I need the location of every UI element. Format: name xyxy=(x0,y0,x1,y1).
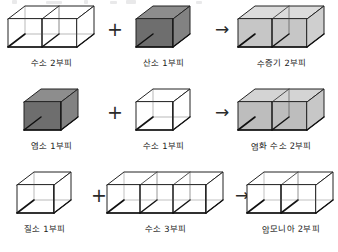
right-arrow-icon: → xyxy=(215,102,229,122)
cube-stack-2-clear xyxy=(5,2,99,56)
right-arrow-icon: → xyxy=(215,19,229,39)
reactant-a: 염소 1부피 xyxy=(0,83,104,151)
term-label: 염화 수소 2부피 xyxy=(251,141,312,151)
cube-group xyxy=(0,166,90,224)
cube-group xyxy=(0,83,104,141)
cube-stack-3-clear xyxy=(104,168,228,222)
term-label: 수소 2부피 xyxy=(31,59,72,68)
cube-group xyxy=(108,166,224,224)
reaction-row: 수소 2부피 + 산소 1부피 xyxy=(0,0,321,84)
cube-group xyxy=(242,83,321,141)
term-label: 질소 1부피 xyxy=(24,225,65,234)
term-label: 수소 3부피 xyxy=(145,225,186,234)
term-label: 산소 1부피 xyxy=(143,59,184,68)
plus-icon: + xyxy=(107,18,123,40)
plus-operator: + xyxy=(104,83,126,141)
term-label: 수소 1부피 xyxy=(143,142,184,151)
cube-group xyxy=(260,166,321,224)
product: 수증기 2부피 xyxy=(242,0,321,68)
product: 염화 수소 2부피 xyxy=(242,83,321,151)
cube-stack-1-dark xyxy=(21,85,83,139)
plus-icon: + xyxy=(107,101,123,123)
product: 암모니아 2부피 xyxy=(260,166,321,234)
cube-group xyxy=(126,0,202,58)
term-label: 염소 1부피 xyxy=(31,142,72,151)
term-label: 암모니아 2부피 xyxy=(262,224,320,234)
plus-operator: + xyxy=(104,0,126,58)
reaction-row: 염소 1부피 + xyxy=(0,83,321,167)
cube-stack-2-light xyxy=(235,85,329,139)
cube-stack-2-light xyxy=(235,2,329,56)
reactant-b: 수소 3부피 xyxy=(108,166,224,234)
cube-stack-1-dark xyxy=(133,2,195,56)
cube-group xyxy=(126,83,202,141)
reactant-a: 질소 1부피 xyxy=(0,166,90,234)
cube-stack-1-clear xyxy=(14,168,76,222)
reactant-b: 산소 1부피 xyxy=(126,0,202,68)
reactant-b: 수소 1부피 xyxy=(126,83,202,151)
reaction-row: 질소 1부피 + xyxy=(0,166,321,250)
cube-group xyxy=(242,0,321,58)
cube-stack-1-clear xyxy=(133,85,195,139)
reactant-a: 수소 2부피 xyxy=(0,0,104,68)
term-label: 수증기 2부피 xyxy=(257,58,307,68)
cube-group xyxy=(0,0,104,58)
cube-stack-2-clear xyxy=(244,168,338,222)
